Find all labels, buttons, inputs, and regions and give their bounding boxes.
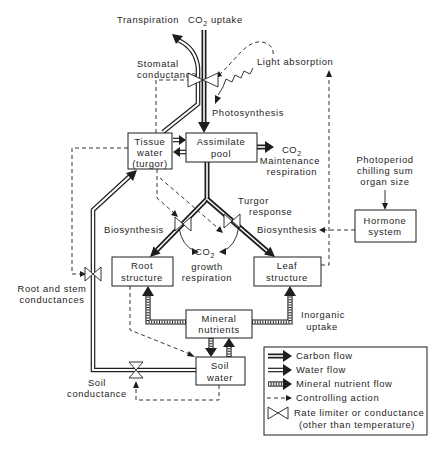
mineral-flow-to-leaf (252, 286, 296, 322)
light-absorption-label: Light absorption (257, 56, 333, 67)
legend-rate-limiter-note: (other than temperature) (299, 419, 415, 430)
soil-label: Soil (88, 377, 106, 388)
svg-text:pool: pool (211, 148, 231, 159)
inorganic-uptake-label: uptake (306, 321, 338, 332)
biosynthesis-left-label: Biosynthesis (104, 224, 164, 235)
carbon-pipe-maintenance (257, 141, 274, 153)
legend-mineral-nutrient-flow: Mineral nutrient flow (296, 378, 393, 389)
svg-text:system: system (368, 226, 401, 237)
svg-text:Hormone: Hormone (364, 215, 407, 226)
legend-carbon-flow: Carbon flow (296, 350, 353, 361)
water-exchange-arrows (173, 135, 186, 157)
plant-growth-flow-diagram: Transpiration CO2 uptake Stomatal conduc… (0, 0, 445, 454)
growth-label: growth (191, 261, 223, 272)
root-stem-conductances-label: conductances (19, 294, 84, 305)
legend-controlling-action: Controlling action (296, 392, 379, 403)
svg-text:structure: structure (121, 272, 163, 283)
maintenance-respiration-label: respiration (267, 166, 317, 177)
svg-text:water: water (206, 372, 233, 383)
legend: Carbon flow Water flow Mineral nutrient … (264, 347, 427, 435)
legend-rate-limiter: Rate limiter or conductance (294, 407, 424, 418)
mineral-flow-from-soil (223, 338, 235, 357)
maintenance-label: Maintenance (260, 155, 320, 166)
assimilate-pool-box: Assimilate pool (186, 133, 257, 162)
hormone-system-box: Hormone system (355, 210, 416, 242)
co2-uptake-label: CO2 uptake (188, 14, 243, 27)
growth-respiration-label: respiration (182, 272, 232, 283)
root-growth-bowtie-icon (175, 217, 191, 231)
svg-text:Root: Root (131, 260, 153, 271)
soil-conductance-label: conductance (67, 388, 127, 399)
mineral-flow-to-soil (205, 338, 217, 357)
stomatal-label: Stomatal (137, 58, 179, 69)
svg-text:Assimilate: Assimilate (197, 136, 246, 147)
soil-water-box: Soil water (196, 357, 245, 385)
mineral-nutrients-box: Mineral nutrients (186, 310, 252, 338)
photosynthesis-label: Photosynthesis (212, 107, 284, 118)
leaf-structure-box: Leaf structure (254, 257, 321, 286)
svg-text:Tissue: Tissue (135, 136, 166, 147)
svg-text:water: water (136, 147, 163, 158)
root-stem-label: Root and stem (18, 283, 87, 294)
root-structure-box: Root structure (112, 257, 173, 286)
tissue-water-box: Tissue water (turgor) (128, 133, 172, 169)
svg-text:Leaf: Leaf (277, 260, 298, 271)
photoperiod-label: Photoperiod (356, 154, 413, 165)
organ-size-label: organ size (360, 176, 409, 187)
chilling-sum-label: chilling sum (357, 165, 413, 176)
turgor-response-label: response (249, 206, 292, 217)
mineral-flow-to-root (142, 286, 186, 322)
co2-uptake-arrowhead-icon (198, 122, 210, 133)
svg-text:(turgor): (turgor) (132, 158, 168, 169)
turgor-label: Turgor (238, 195, 269, 206)
biosynthesis-right-label: Biosynthesis (257, 224, 317, 235)
svg-text:Soil: Soil (211, 360, 229, 371)
inorganic-label: Inorganic (301, 309, 345, 320)
svg-text:structure: structure (266, 272, 308, 283)
legend-water-flow: Water flow (296, 364, 346, 375)
svg-text:nutrients: nutrients (198, 324, 239, 335)
svg-text:Mineral: Mineral (202, 313, 237, 324)
transpiration-label: Transpiration (117, 14, 179, 25)
growth-co2-label: CO2 (195, 246, 215, 259)
leaf-growth-bowtie-icon (224, 214, 240, 228)
